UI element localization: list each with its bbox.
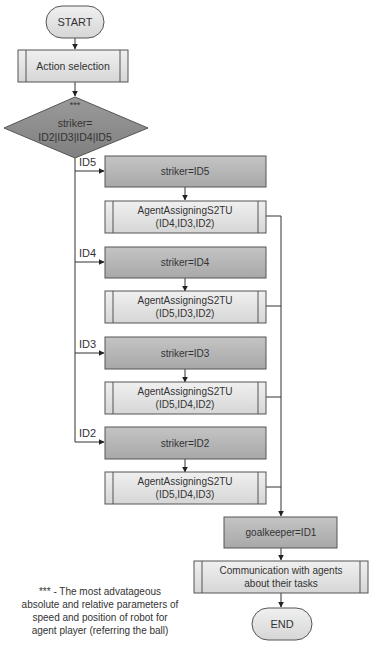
edge-label-id4: ID4 xyxy=(79,247,96,259)
action-selection-subprocess: Action selection xyxy=(18,50,128,82)
end-label: END xyxy=(270,618,293,630)
communication-subprocess: Communication with agents about their ta… xyxy=(194,561,368,593)
striker-decision: *** striker= ID2|ID3|ID4|ID5 xyxy=(4,97,148,158)
subprocess-label-line1: AgentAssigningS2TU xyxy=(137,386,232,397)
assign-striker-id4: striker=ID4 xyxy=(105,247,266,278)
end-terminal: END xyxy=(252,608,312,640)
footnote-line1: *** - The most advatageous xyxy=(4,585,196,598)
subprocess-label-line1: AgentAssigningS2TU xyxy=(137,476,232,487)
communication-line2: about their tasks xyxy=(244,578,317,589)
subprocess-agent-assigning-id5: AgentAssigningS2TU (ID4,ID3,ID2) xyxy=(105,201,266,233)
subprocess-label-line2: (ID4,ID3,ID2) xyxy=(156,218,215,229)
decision-line1: striker= xyxy=(58,117,93,129)
footnote-line4: agent player (referring the ball) xyxy=(4,624,196,637)
goalkeeper-label: goalkeeper=ID1 xyxy=(246,527,317,538)
action-selection-label: Action selection xyxy=(36,60,110,72)
subprocess-agent-assigning-id2: AgentAssigningS2TU (ID5,ID4,ID3) xyxy=(105,472,266,504)
subprocess-agent-assigning-id4: AgentAssigningS2TU (ID5,ID3,ID2) xyxy=(105,291,266,323)
subprocess-label-line2: (ID5,ID4,ID2) xyxy=(156,399,215,410)
assign-label: striker=ID4 xyxy=(161,257,210,268)
footnote: *** - The most advatageous absolute and … xyxy=(4,585,196,637)
assign-goalkeeper: goalkeeper=ID1 xyxy=(224,517,337,548)
start-terminal: START xyxy=(46,6,104,38)
flowchart-canvas: START Action selection *** striker= ID2|… xyxy=(0,0,378,654)
communication-line1: Communication with agents xyxy=(220,565,343,576)
assign-striker-id3: striker=ID3 xyxy=(105,337,266,369)
edge-label-id3: ID3 xyxy=(79,338,96,350)
subprocess-label-line1: AgentAssigningS2TU xyxy=(137,205,232,216)
decision-line2: ID2|ID3|ID4|ID5 xyxy=(38,131,112,143)
subprocess-label-line1: AgentAssigningS2TU xyxy=(137,295,232,306)
edge-label-id5: ID5 xyxy=(79,156,96,168)
edge-label-id2: ID2 xyxy=(79,427,96,439)
subprocess-label-line2: (ID5,ID4,ID3) xyxy=(156,489,215,500)
footnote-line2: absolute and relative parameters of xyxy=(4,598,196,611)
start-label: START xyxy=(57,16,92,28)
assign-label: striker=ID5 xyxy=(161,166,210,177)
footnote-line3: speed and position of robot for xyxy=(4,611,196,624)
assign-label: striker=ID2 xyxy=(161,438,210,449)
subprocess-agent-assigning-id3: AgentAssigningS2TU (ID5,ID4,ID2) xyxy=(105,382,266,414)
assign-label: striker=ID3 xyxy=(161,348,210,359)
assign-striker-id5: striker=ID5 xyxy=(105,156,266,187)
assign-striker-id2: striker=ID2 xyxy=(105,427,266,459)
decision-marker: *** xyxy=(70,100,81,110)
subprocess-label-line2: (ID5,ID3,ID2) xyxy=(156,308,215,319)
